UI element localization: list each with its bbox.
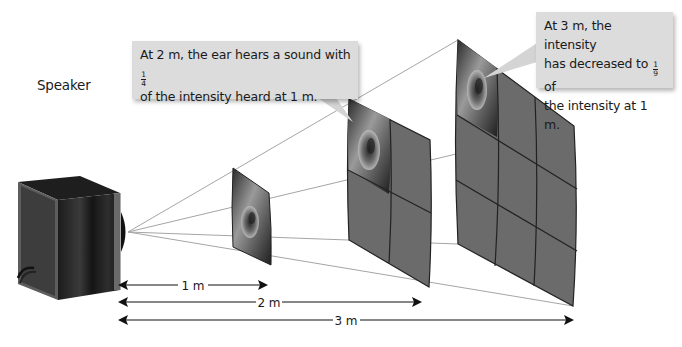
- dimension-label-1m: 1 m: [181, 279, 204, 293]
- fraction-one-ninth: 19: [653, 61, 658, 77]
- callout-3m: At 3 m, the intensity has decreased to 1…: [536, 12, 673, 88]
- callout-3m-pointer: [484, 43, 537, 78]
- panel-2m: [348, 99, 432, 287]
- callout-3m-line1: At 3 m, the intensity: [544, 16, 666, 54]
- callout-2m: At 2 m, the ear hears a sound with 14 of…: [132, 41, 358, 99]
- inverse-square-diagram: 1 m 2 m 3 m Speaker At 2 m, the ear hear…: [0, 0, 682, 347]
- callout-3m-line2: has decreased to: [544, 56, 652, 71]
- speaker-front: [58, 193, 120, 300]
- dimension-label-2m: 2 m: [257, 296, 280, 310]
- speaker-label: Speaker: [37, 77, 91, 93]
- fraction-one-quarter: 14: [141, 71, 146, 87]
- dimension-label-3m: 3 m: [334, 314, 357, 328]
- callout-2m-text: At 2 m, the ear hears a sound with: [140, 47, 350, 62]
- speaker: [18, 176, 126, 300]
- callout-2m-text-line2: of the intensity heard at 1 m.: [140, 87, 351, 106]
- callout-3m-line3: the intensity at 1 m.: [544, 96, 666, 134]
- speaker-cone: [121, 212, 126, 252]
